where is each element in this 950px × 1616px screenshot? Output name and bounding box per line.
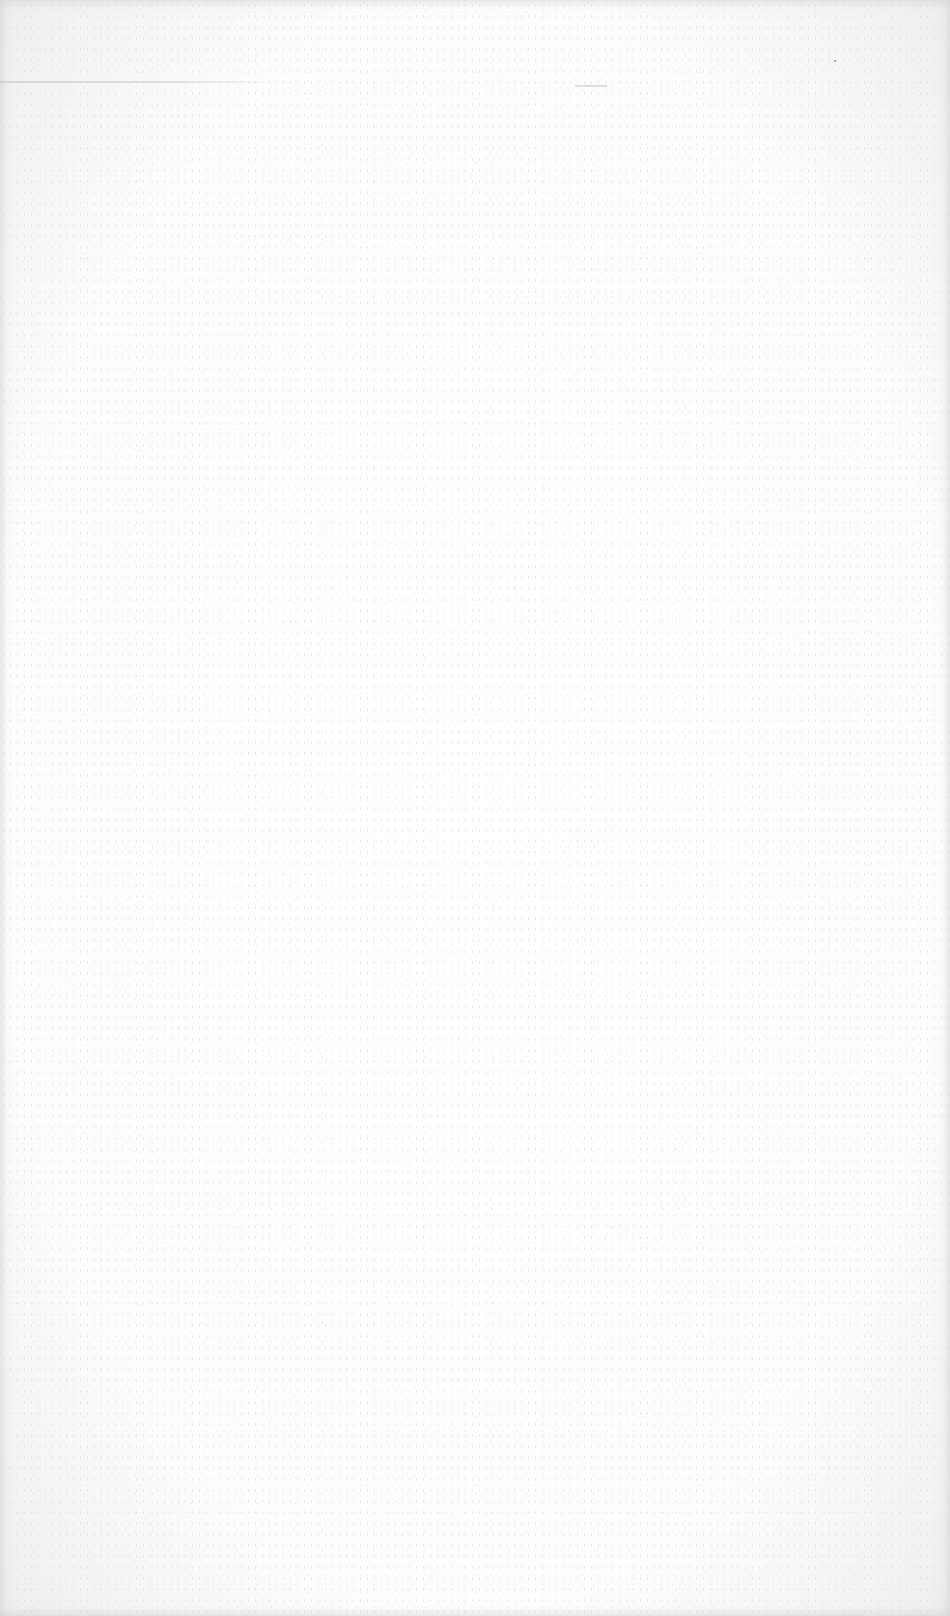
horizontal-rule [0, 81, 280, 83]
blank-page [0, 0, 950, 1616]
paper-texture [0, 0, 950, 1616]
speck-mark [834, 60, 836, 62]
horizontal-rule-fragment [575, 85, 607, 87]
